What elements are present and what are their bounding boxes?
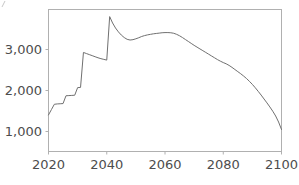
x-tick-label-2020: 2020 bbox=[32, 157, 65, 172]
plot-frame bbox=[49, 10, 282, 152]
y-tick-label-2000: 2,000 bbox=[5, 83, 42, 98]
x-tick-label-2060: 2060 bbox=[148, 157, 181, 172]
y-tick-label-1000: 1,000 bbox=[5, 124, 42, 139]
corner-tick-icon bbox=[2, 1, 5, 7]
x-tick-labels: 2020 2040 2060 2080 2100 bbox=[32, 157, 298, 172]
plot-frame-group bbox=[49, 10, 282, 152]
x-tick-label-2080: 2080 bbox=[207, 157, 240, 172]
x-tick-label-2040: 2040 bbox=[90, 157, 123, 172]
y-tick-label-3000: 3,000 bbox=[5, 42, 42, 57]
series-line-1 bbox=[49, 17, 282, 130]
x-tick-label-2100: 2100 bbox=[265, 157, 298, 172]
top-left-decoration bbox=[2, 1, 5, 7]
series-group bbox=[49, 17, 282, 130]
y-tick-labels: 3,000 2,000 1,000 bbox=[5, 42, 42, 139]
chart-container: 3,000 2,000 1,000 2020 2040 2060 2080 21… bbox=[0, 0, 299, 185]
line-chart: 3,000 2,000 1,000 2020 2040 2060 2080 21… bbox=[0, 0, 299, 185]
